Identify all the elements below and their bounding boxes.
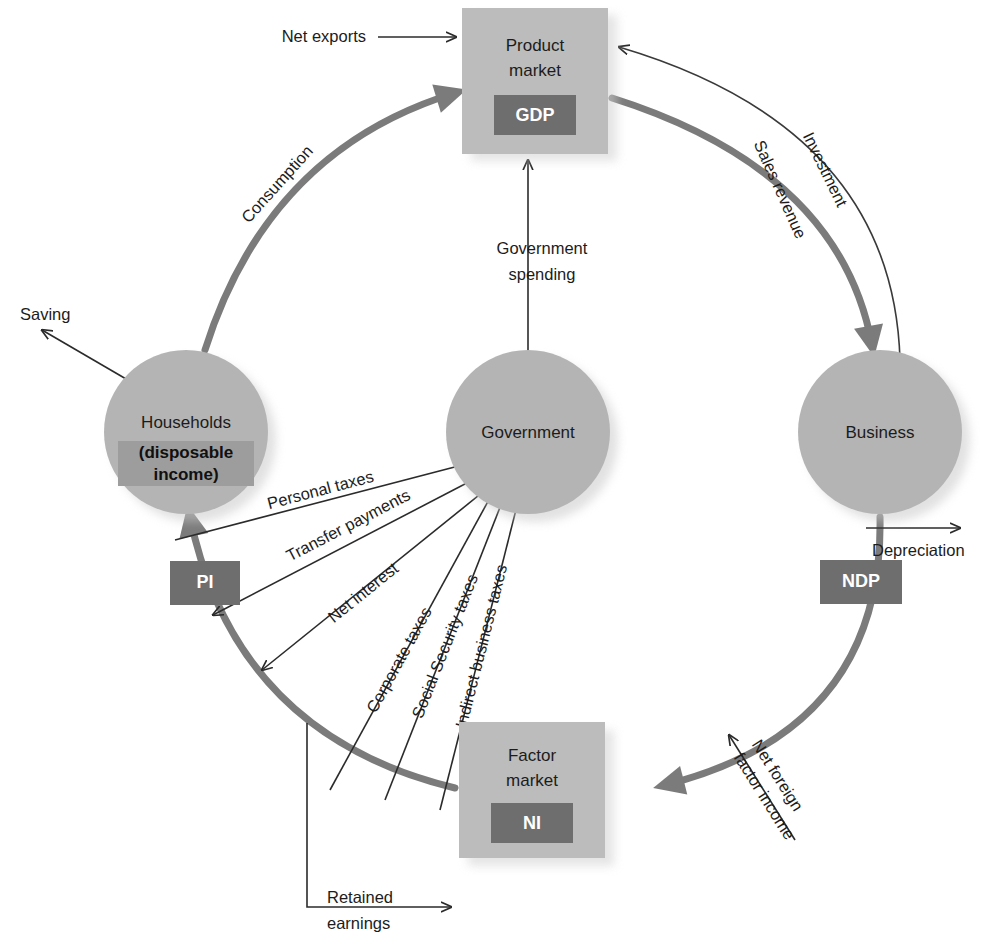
node-product-market[interactable]: Product market GDP	[462, 8, 617, 161]
flow-label-personal-taxes: Personal taxes	[265, 467, 375, 512]
factor-market-label-line2: market	[506, 771, 558, 790]
factor-market-label-line1: Factor	[508, 746, 557, 765]
flow-label-saving: Saving	[20, 305, 70, 323]
node-government[interactable]: Government	[446, 350, 618, 522]
gdp-badge-label: GDP	[515, 105, 554, 125]
pi-badge-group: PI	[170, 561, 240, 605]
diagram-canvas: Consumption Sales revenue Investment Net…	[0, 0, 990, 941]
flow-label-government-spending-line1: Government	[497, 239, 588, 257]
product-market-label-line2: market	[509, 61, 561, 80]
circular-flow-diagram: Consumption Sales revenue Investment Net…	[0, 0, 990, 941]
flow-business-to-factor-market	[665, 517, 880, 785]
flow-government-spending: Government spending	[497, 160, 588, 352]
flow-retained-earnings: Retained earnings	[307, 723, 451, 932]
ndp-badge-label: NDP	[842, 571, 880, 591]
households-sub-line1: (disposable	[139, 443, 233, 462]
flow-investment: Investment	[619, 47, 900, 360]
flow-label-retained-earnings-line1: Retained	[327, 888, 393, 906]
flow-label-net-exports: Net exports	[282, 27, 366, 45]
node-households[interactable]: Households (disposable income)	[104, 350, 276, 522]
flow-net-foreign-factor-income: Net foreign factor income	[729, 735, 807, 843]
flow-sales-revenue: Sales revenue	[612, 98, 872, 345]
flow-label-depreciation: Depreciation	[872, 541, 965, 559]
node-business[interactable]: Business	[798, 350, 970, 522]
households-sub-line2: income)	[153, 465, 218, 484]
flow-label-net-interest: Net interest	[324, 559, 401, 626]
business-label: Business	[846, 423, 915, 442]
flow-net-exports: Net exports	[282, 27, 456, 45]
flow-label-investment: Investment	[800, 129, 852, 210]
flow-label-retained-earnings-line2: earnings	[327, 914, 390, 932]
pi-badge-label: PI	[196, 572, 213, 592]
government-label: Government	[481, 423, 575, 442]
product-market-label-line1: Product	[506, 36, 565, 55]
ndp-badge-group: NDP	[820, 560, 902, 604]
flow-consumption: Consumption	[205, 93, 455, 350]
ni-badge-label: NI	[523, 813, 541, 833]
node-factor-market[interactable]: Factor market NI	[459, 722, 614, 866]
flow-label-sales-revenue: Sales revenue	[751, 137, 810, 241]
households-label: Households	[141, 413, 231, 432]
flow-label-government-spending-line2: spending	[509, 265, 576, 283]
